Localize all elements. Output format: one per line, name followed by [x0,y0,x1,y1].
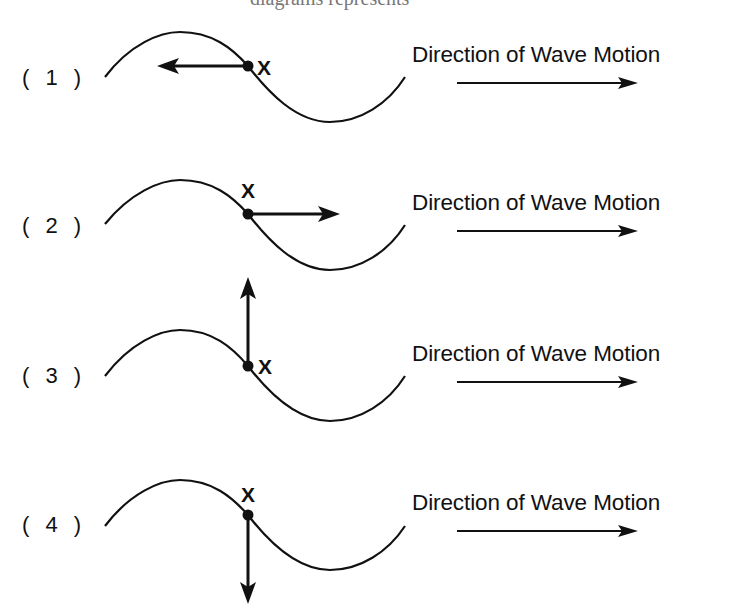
option-4-direction-label: Direction of Wave Motion [412,492,660,515]
point-x-marker [243,209,254,220]
option-2-direction-label: Direction of Wave Motion [412,192,660,215]
option-1-label: ( 1 ) [22,67,86,89]
point-x-marker [243,510,254,521]
option-3-label: ( 3 ) [22,365,86,387]
point-x-marker [243,61,254,72]
wave-curve [105,330,405,421]
option-4-point-label: X [241,484,255,505]
option-2-label: ( 2 ) [22,215,86,237]
point-x-marker [243,361,254,372]
wave-motion-diagram: diagrams represents [0,0,743,614]
option-3-point-label: X [258,356,272,377]
diagram-canvas [0,0,743,614]
wave-curve [105,32,405,122]
cut-off-question-text: diagrams represents [250,0,409,8]
option-1-point-label: X [257,57,271,78]
option-1-direction-label: Direction of Wave Motion [412,44,660,67]
option-4-label: ( 4 ) [22,514,86,536]
option-2-point-label: X [241,180,255,201]
option-3-direction-label: Direction of Wave Motion [412,343,660,366]
